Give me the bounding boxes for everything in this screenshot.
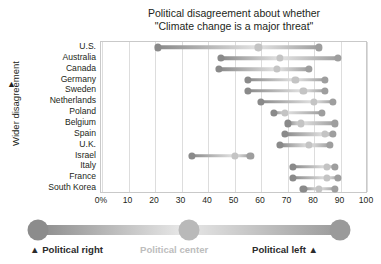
x-tick-0: 0% bbox=[95, 195, 107, 205]
gridline-100 bbox=[367, 42, 368, 192]
connector-center-to-left bbox=[277, 67, 309, 70]
data-point-right bbox=[257, 98, 264, 105]
data-point-right bbox=[289, 174, 296, 181]
y-tick-spain: Spain bbox=[24, 128, 96, 139]
y-tick-poland: Poland bbox=[24, 106, 96, 117]
data-point-center bbox=[273, 66, 280, 73]
data-point-center bbox=[324, 163, 331, 170]
connector-right-to-center bbox=[248, 78, 296, 81]
y-tick-france: France bbox=[24, 171, 96, 182]
data-point-left bbox=[329, 131, 336, 138]
data-point-right bbox=[284, 120, 291, 127]
connector-right-to-center bbox=[248, 89, 304, 92]
connector-right-to-center bbox=[158, 46, 259, 49]
legend-labels: ▲ Political right Political center Polit… bbox=[0, 244, 381, 260]
x-tick-70: 70 bbox=[282, 195, 292, 205]
data-point-center bbox=[292, 76, 299, 83]
connector-right-to-center bbox=[221, 57, 279, 60]
data-point-right bbox=[271, 109, 278, 116]
chart-figure: Political disagreement about whether "Cl… bbox=[0, 0, 381, 264]
connector-right-to-center bbox=[219, 67, 277, 70]
legend-label-political-right: ▲ Political right bbox=[30, 244, 103, 255]
legend-label-political-center: Political center bbox=[140, 244, 208, 255]
y-tick-sweden: Sweden bbox=[24, 84, 96, 95]
y-tick-u-k-: U.K. bbox=[24, 139, 96, 150]
data-point-left bbox=[334, 174, 341, 181]
legend-gradient bbox=[24, 218, 354, 242]
connector-right-to-center bbox=[261, 100, 314, 103]
legend-left-arrow-icon: ▲ bbox=[30, 244, 40, 255]
chart-title-line-1: Political disagreement about whether bbox=[96, 7, 372, 20]
x-tick-30: 30 bbox=[176, 195, 186, 205]
chart-title: Political disagreement about whether "Cl… bbox=[96, 7, 372, 33]
legend-dot-political-center bbox=[179, 220, 200, 241]
connector-right-to-center bbox=[192, 154, 234, 157]
data-point-right bbox=[189, 152, 196, 159]
data-point-center bbox=[321, 131, 328, 138]
data-point-right bbox=[300, 185, 307, 192]
data-point-left bbox=[332, 163, 339, 170]
x-tick-50: 50 bbox=[229, 195, 239, 205]
data-point-center bbox=[276, 55, 283, 62]
data-point-center bbox=[324, 174, 331, 181]
y-tick-canada: Canada bbox=[24, 63, 96, 74]
data-point-right bbox=[281, 131, 288, 138]
table-row bbox=[101, 53, 366, 64]
data-point-left bbox=[305, 66, 312, 73]
data-point-left bbox=[334, 55, 341, 62]
legend-dot-political-right bbox=[28, 220, 49, 241]
table-row bbox=[101, 151, 366, 162]
data-point-center bbox=[305, 142, 312, 149]
data-point-right bbox=[244, 87, 251, 94]
data-point-left bbox=[247, 152, 254, 159]
x-tick-90: 90 bbox=[335, 195, 345, 205]
data-point-left bbox=[332, 185, 339, 192]
y-tick-israel: Israel bbox=[24, 150, 96, 161]
legend-right-arrow-icon: ▲ bbox=[309, 244, 319, 255]
data-rows bbox=[101, 42, 366, 192]
legend-dot-political-left bbox=[330, 220, 351, 241]
connector-right-to-center bbox=[293, 176, 327, 179]
table-row bbox=[101, 107, 366, 118]
connector-center-to-left bbox=[285, 111, 322, 114]
data-point-left bbox=[321, 76, 328, 83]
y-tick-u-s-: U.S. bbox=[24, 41, 96, 52]
data-point-center bbox=[231, 152, 238, 159]
data-point-center bbox=[255, 44, 262, 51]
table-row bbox=[101, 42, 366, 53]
table-row bbox=[101, 140, 366, 151]
y-axis-caption: ▲ Wider disagreement bbox=[0, 36, 22, 196]
data-point-right bbox=[276, 142, 283, 149]
x-tick-10: 10 bbox=[123, 195, 133, 205]
connector-center-to-left bbox=[258, 46, 319, 49]
y-axis-label: Wider disagreement bbox=[10, 29, 21, 179]
y-tick-australia: Australia bbox=[24, 52, 96, 63]
y-axis-tick-labels: U.S.AustraliaCanadaGermanySwedenNetherla… bbox=[24, 41, 96, 193]
data-point-left bbox=[318, 109, 325, 116]
data-point-center bbox=[310, 98, 317, 105]
plot-area bbox=[100, 41, 367, 193]
table-row bbox=[101, 96, 366, 107]
data-point-right bbox=[244, 76, 251, 83]
table-row bbox=[101, 129, 366, 140]
data-point-right bbox=[289, 163, 296, 170]
x-axis-tick-labels: 0%102030405060708090100 bbox=[100, 195, 367, 207]
x-tick-60: 60 bbox=[255, 195, 265, 205]
legend-label-political-left: Political left ▲ bbox=[252, 244, 318, 255]
connector-center-to-left bbox=[301, 122, 335, 125]
x-tick-20: 20 bbox=[149, 195, 159, 205]
table-row bbox=[101, 172, 366, 183]
data-point-center bbox=[300, 87, 307, 94]
table-row bbox=[101, 161, 366, 172]
y-tick-germany: Germany bbox=[24, 74, 96, 85]
data-point-left bbox=[326, 142, 333, 149]
y-tick-netherlands: Netherlands bbox=[24, 95, 96, 106]
table-row bbox=[101, 64, 366, 75]
data-point-left bbox=[329, 98, 336, 105]
data-point-center bbox=[297, 120, 304, 127]
x-tick-100: 100 bbox=[359, 195, 373, 205]
y-tick-belgium: Belgium bbox=[24, 117, 96, 128]
data-point-left bbox=[321, 87, 328, 94]
chart-title-line-2: "Climate change is a major threat" bbox=[96, 20, 372, 33]
x-tick-80: 80 bbox=[308, 195, 318, 205]
